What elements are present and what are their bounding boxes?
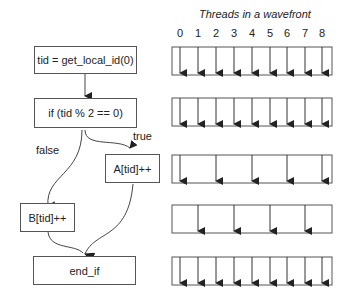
thread-id-1: 1 — [192, 27, 204, 39]
thread-id-5: 5 — [264, 27, 276, 39]
node-b-increment: B[tid]++ — [20, 203, 75, 232]
thread-id-4: 4 — [246, 27, 258, 39]
thread-id-8: 8 — [316, 27, 328, 39]
edge-true — [85, 130, 130, 148]
node-end-if: end_if — [33, 256, 136, 285]
edge-a-endif — [85, 184, 133, 254]
thread-id-3: 3 — [228, 27, 240, 39]
edge-b-endif — [48, 232, 83, 253]
node-get-local-id: tid = get_local_id(0) — [34, 46, 137, 74]
thread-id-0: 0 — [174, 27, 186, 39]
wavefront-title: Threads in a wavefront — [199, 8, 311, 20]
thread-id-6: 6 — [281, 27, 293, 39]
thread-id-2: 2 — [210, 27, 222, 39]
node-if-condition: if (tid % 2 == 0) — [34, 98, 137, 128]
node-a-increment: A[tid]++ — [105, 154, 160, 183]
edge-label-false: false — [36, 144, 59, 156]
wavefront-rows — [172, 47, 332, 285]
edge-false — [48, 130, 82, 206]
wavefront-row-n4 — [172, 205, 332, 233]
thread-id-7: 7 — [299, 27, 311, 39]
edge-label-true: true — [133, 130, 152, 142]
